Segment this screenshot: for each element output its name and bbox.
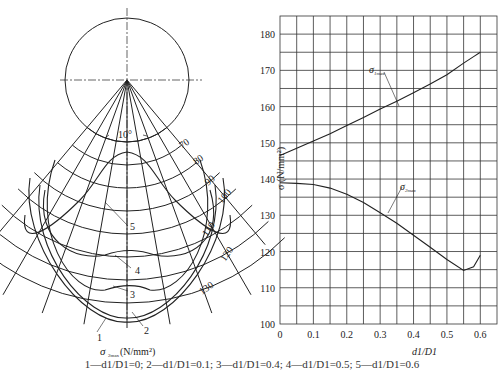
svg-text:0.3: 0.3 — [374, 329, 387, 340]
svg-text:180: 180 — [260, 29, 275, 40]
contour-label-80: 80 — [191, 152, 206, 167]
svg-text:140: 140 — [260, 174, 275, 185]
y-tick-labels: 100110120130140150160170180 — [260, 29, 275, 330]
contour-label-100: 100 — [215, 187, 233, 206]
figure-canvas: 10° 70 80 90 100 110 120 130 1 2 3 4 5 σ… — [0, 0, 504, 380]
curve-label-4: 4 — [135, 265, 140, 276]
contour-label-70: 70 — [177, 136, 192, 151]
svg-text:170: 170 — [260, 65, 275, 76]
series-label-sigma2max: σ2max — [400, 181, 417, 193]
svg-text:130: 130 — [260, 210, 275, 221]
polar-diagram — [0, 8, 285, 332]
line-chart: 100110120130140150160170180 00.10.20.30.… — [260, 16, 497, 357]
svg-text:0.6: 0.6 — [474, 329, 487, 340]
svg-text:0.4: 0.4 — [407, 329, 420, 340]
contour-label-130: 130 — [197, 279, 216, 297]
svg-text:110: 110 — [260, 283, 275, 294]
curve-label-1: 1 — [97, 332, 102, 343]
curve-label-5: 5 — [130, 221, 135, 232]
curve-label-2: 2 — [144, 325, 149, 336]
y-axis-label: σ (N/mm²) — [275, 147, 287, 190]
angle-label: 10° — [118, 129, 132, 140]
polar-axis-sigma: σ — [100, 345, 106, 357]
svg-text:160: 160 — [260, 102, 275, 113]
polar-axis-unit: (N/mm²) — [120, 346, 155, 358]
caption-legend: 1—d1/D1=0; 2—d1/D1=0.1; 3—d1/D1=0.4; 4—d… — [0, 358, 504, 370]
svg-text:0: 0 — [278, 329, 283, 340]
svg-text:0.1: 0.1 — [307, 329, 320, 340]
svg-text:120: 120 — [260, 247, 275, 258]
x-tick-labels: 00.10.20.30.40.50.6 — [278, 329, 487, 340]
curve-label-3: 3 — [130, 289, 135, 300]
contour-label-120: 120 — [218, 245, 236, 264]
svg-text:150: 150 — [260, 138, 275, 149]
x-axis-label: d1/D1 — [412, 346, 437, 357]
svg-text:0.2: 0.2 — [341, 329, 354, 340]
svg-text:0.5: 0.5 — [441, 329, 454, 340]
contour-arcs — [0, 127, 285, 303]
svg-text:100: 100 — [260, 319, 275, 330]
